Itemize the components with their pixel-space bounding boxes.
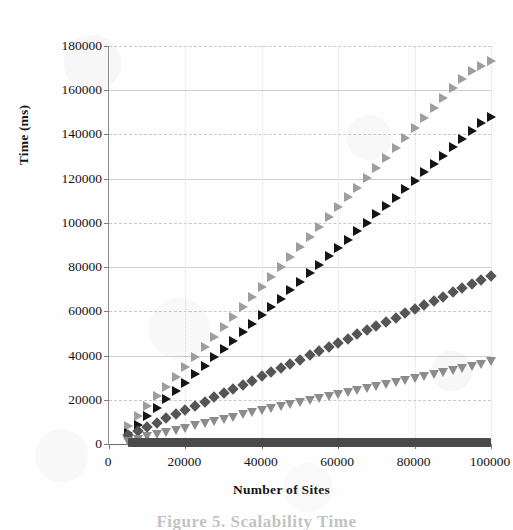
x-tick-label: 20000	[168, 455, 202, 469]
x-axis-title: Number of Sites	[0, 482, 513, 498]
plot-area	[108, 46, 491, 445]
figure-caption: Figure 5. Scalability Time	[0, 512, 513, 530]
y-tick-label: 100000	[12, 216, 102, 230]
gridline-vertical	[491, 46, 492, 444]
y-tick-label: 0	[12, 437, 102, 451]
x-tick-label: 40000	[244, 455, 278, 469]
x-tick-label: 60000	[320, 455, 354, 469]
figure-root: Time (ms) 020000400006000080000100000120…	[0, 0, 513, 530]
x-tick-label: 80000	[397, 455, 431, 469]
data-series-5	[109, 46, 491, 444]
x-tick-label: 0	[105, 455, 112, 469]
x-tick-label: 100000	[470, 455, 511, 469]
baseline-band	[128, 438, 491, 447]
y-tick-label: 120000	[12, 172, 102, 186]
y-tick-label: 140000	[12, 128, 102, 142]
x-tick-mark	[109, 444, 110, 449]
y-tick-label: 20000	[12, 393, 102, 407]
x-tick-mark	[491, 444, 492, 449]
y-tick-label: 180000	[12, 39, 102, 53]
y-tick-label: 160000	[12, 83, 102, 97]
y-tick-label: 80000	[12, 260, 102, 274]
y-tick-label: 40000	[12, 349, 102, 363]
y-tick-label: 60000	[12, 305, 102, 319]
x-tick-labels: 020000400006000080000100000	[0, 455, 513, 477]
y-tick-labels: 0200004000060000800001000001200001400001…	[10, 0, 102, 530]
